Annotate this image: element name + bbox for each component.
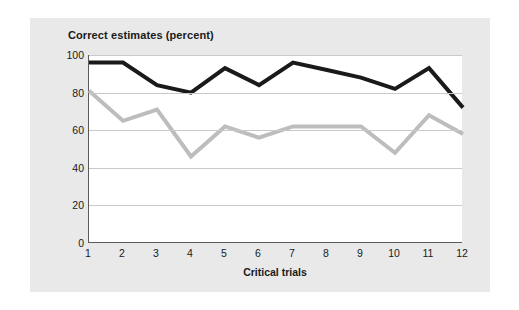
x-axis-tick-label: 9 xyxy=(345,247,375,259)
y-axis-tick-label: 60 xyxy=(44,124,84,136)
gridline xyxy=(89,93,462,94)
y-axis-tick-label: 20 xyxy=(44,199,84,211)
x-axis-tick-labels: 123456789101112 xyxy=(88,247,462,263)
plot-lines xyxy=(89,55,463,243)
y-axis-tick-label: 80 xyxy=(44,87,84,99)
x-axis-tick-label: 1 xyxy=(73,247,103,259)
y-axis-tick-labels: 020406080100 xyxy=(42,55,84,243)
gridline xyxy=(89,205,462,206)
x-axis-tick-label: 3 xyxy=(141,247,171,259)
x-axis-tick-label: 4 xyxy=(175,247,205,259)
x-axis-tick-label: 10 xyxy=(379,247,409,259)
figure: Correct estimates (percent) 020406080100… xyxy=(0,0,519,310)
plot-area xyxy=(88,55,462,243)
gridline xyxy=(89,168,462,169)
y-axis-tick-label: 100 xyxy=(44,49,84,61)
gridline xyxy=(89,130,462,131)
series-line-black-series xyxy=(89,63,463,108)
x-axis-tick-label: 6 xyxy=(243,247,273,259)
gridline xyxy=(89,55,462,56)
x-axis-title: Critical trials xyxy=(88,266,462,278)
chart-title: Correct estimates (percent) xyxy=(68,29,214,41)
y-axis-tick-label: 40 xyxy=(44,162,84,174)
x-axis-tick-label: 2 xyxy=(107,247,137,259)
x-axis-tick-label: 7 xyxy=(277,247,307,259)
x-axis-tick-label: 12 xyxy=(447,247,477,259)
x-axis-tick-label: 5 xyxy=(209,247,239,259)
x-axis-tick-label: 8 xyxy=(311,247,341,259)
series-line-gray-series xyxy=(89,91,463,157)
x-axis-tick-label: 11 xyxy=(413,247,443,259)
